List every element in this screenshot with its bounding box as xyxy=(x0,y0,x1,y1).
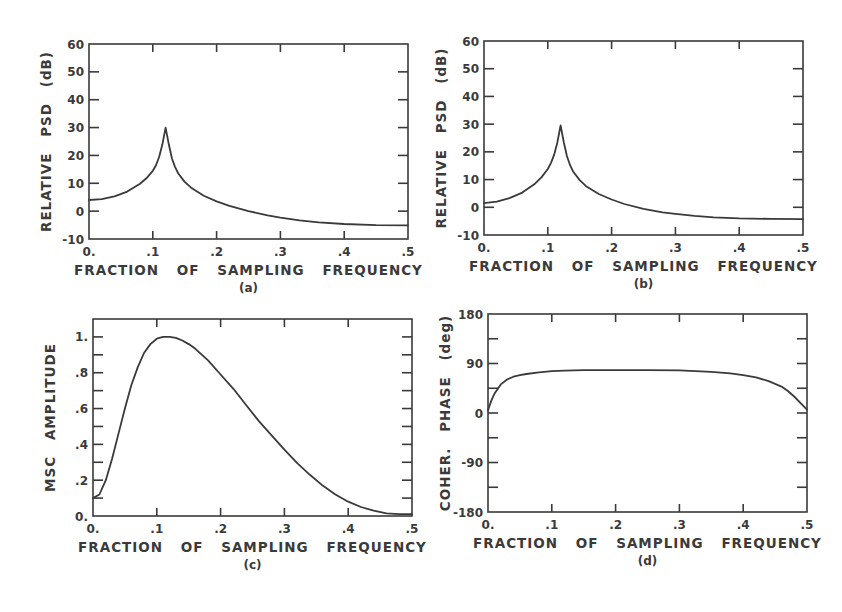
y-tick-label: .6 xyxy=(75,402,88,416)
y-tick-label: 0. xyxy=(75,510,88,524)
y-tick-label: 10 xyxy=(462,173,479,187)
y-tick-label: -10 xyxy=(457,229,479,243)
y-tick-label: -90 xyxy=(461,456,483,470)
x-tick-label: .4 xyxy=(342,522,355,536)
x-tick-label: 0. xyxy=(83,245,96,259)
x-axis-label: FRACTION OF SAMPLING FREQUENCY xyxy=(469,258,818,274)
x-axis-label: FRACTION OF SAMPLING FREQUENCY xyxy=(78,539,427,555)
y-tick-label: 50 xyxy=(462,62,479,76)
x-tick-label: .4 xyxy=(737,518,750,532)
y-tick-label: 60 xyxy=(67,38,84,52)
x-tick-label: .5 xyxy=(797,241,810,255)
panel-caption: (d) xyxy=(638,554,658,568)
y-tick-label: 1. xyxy=(75,330,88,344)
y-tick-label: 0 xyxy=(475,407,483,421)
y-tick-label: -10 xyxy=(62,233,84,247)
panel-caption: (c) xyxy=(243,558,261,572)
panel-caption: (a) xyxy=(239,281,258,295)
x-tick-label: .1 xyxy=(541,241,554,255)
x-tick-label: .4 xyxy=(338,245,351,259)
x-tick-label: 0. xyxy=(482,518,495,532)
y-tick-label: 30 xyxy=(67,121,84,135)
y-tick-label: 30 xyxy=(462,118,479,132)
y-tick-label: -180 xyxy=(453,506,483,520)
y-tick-label: 60 xyxy=(462,35,479,49)
y-tick-label: .8 xyxy=(75,366,88,380)
panel-caption: (b) xyxy=(634,277,654,291)
y-tick-label: 50 xyxy=(67,65,84,79)
y-tick-label: 10 xyxy=(67,177,84,191)
x-tick-label: .2 xyxy=(210,245,223,259)
x-tick-label: .2 xyxy=(609,518,622,532)
x-tick-label: .1 xyxy=(545,518,558,532)
y-tick-label: 0 xyxy=(76,205,84,219)
y-tick-label: 40 xyxy=(462,90,479,104)
x-tick-label: .2 xyxy=(214,522,227,536)
y-tick-label: .4 xyxy=(75,438,88,452)
y-axis-label: MSC AMPLITUDE xyxy=(42,343,58,492)
y-tick-label: 40 xyxy=(67,93,84,107)
x-axis-label: FRACTION OF SAMPLING FREQUENCY xyxy=(74,262,423,278)
y-tick-label: 20 xyxy=(67,149,84,163)
x-axis-label: FRACTION OF SAMPLING FREQUENCY xyxy=(473,535,822,551)
x-tick-label: .4 xyxy=(733,241,746,255)
x-tick-label: 0. xyxy=(87,522,100,536)
y-tick-label: 20 xyxy=(462,145,479,159)
x-tick-label: .2 xyxy=(605,241,618,255)
y-tick-label: 180 xyxy=(458,308,483,322)
y-axis-label: COHER. PHASE (deg) xyxy=(437,315,453,512)
y-tick-label: 0 xyxy=(471,201,479,215)
x-tick-label: .5 xyxy=(406,522,419,536)
y-tick-label: 90 xyxy=(466,357,483,371)
x-tick-label: .1 xyxy=(146,245,159,259)
x-tick-label: .3 xyxy=(278,522,291,536)
figure: 0..1.2.3.4.5-100102030405060FRACTION OF … xyxy=(0,0,842,612)
x-tick-label: .3 xyxy=(673,518,686,532)
figure-background xyxy=(0,0,842,612)
y-axis-label: RELATIVE PSD (dB) xyxy=(38,51,54,232)
x-tick-label: .3 xyxy=(669,241,682,255)
y-axis-label: RELATIVE PSD (dB) xyxy=(433,47,449,228)
x-tick-label: 0. xyxy=(478,241,491,255)
x-tick-label: .1 xyxy=(150,522,163,536)
y-tick-label: .2 xyxy=(75,474,88,488)
x-tick-label: .3 xyxy=(274,245,287,259)
x-tick-label: .5 xyxy=(801,518,814,532)
x-tick-label: .5 xyxy=(402,245,415,259)
